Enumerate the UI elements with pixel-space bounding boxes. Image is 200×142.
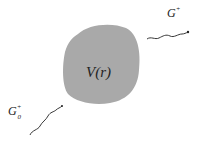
- incoming-symbol: G: [8, 104, 17, 118]
- incoming-wave-icon: [30, 106, 62, 135]
- incoming-superscript: +: [17, 103, 22, 111]
- incoming-green-function-label: G+0: [8, 104, 25, 119]
- outgoing-wave-icon: [147, 32, 188, 39]
- outgoing-green-function-label: G+: [167, 6, 180, 21]
- outgoing-superscript: +: [176, 5, 181, 13]
- incoming-subscript: 0: [17, 113, 21, 121]
- potential-label: V(r): [86, 64, 111, 81]
- incoming-arrowhead-icon: [61, 105, 63, 107]
- outgoing-arrowhead-icon: [187, 31, 189, 33]
- potential-text: V(r): [86, 64, 111, 80]
- outgoing-symbol: G: [167, 6, 176, 20]
